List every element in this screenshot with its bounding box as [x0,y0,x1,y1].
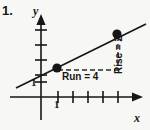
slope-figure: 1. [0,0,150,130]
x-axis-label: x [134,112,140,124]
y-axis-tick-label-one: 1 [31,77,37,88]
run-annotation-label: Run = 4 [62,72,98,82]
coordinate-plane-graphic [0,0,150,130]
x-axis-tick-label-one: 1 [54,99,60,110]
y-axis-label: y [33,5,38,17]
data-point-1 [52,63,61,72]
x-axis-arrowhead [132,92,143,101]
rise-annotation-label: Rise = 2 [114,36,124,74]
